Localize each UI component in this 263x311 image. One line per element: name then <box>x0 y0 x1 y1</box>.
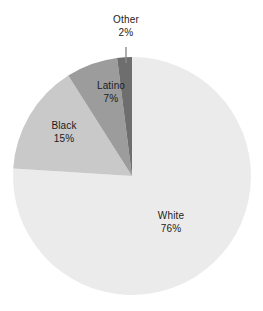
pie-chart-svg <box>0 0 263 311</box>
pie-chart: Other 2% Latino 7% Black 15% White 76% <box>0 0 263 311</box>
